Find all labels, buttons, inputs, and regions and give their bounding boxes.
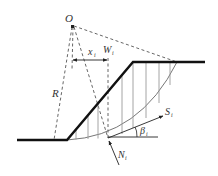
label-normal-sub: i xyxy=(125,155,127,161)
label-radius-R: R xyxy=(51,87,59,99)
label-center-O: O xyxy=(65,12,73,24)
label-weight-sub: i xyxy=(112,50,114,56)
label-angle-beta: β xyxy=(139,125,145,136)
label-distance-sub: i xyxy=(94,52,96,58)
ground-profile xyxy=(17,62,205,140)
center-point xyxy=(71,25,74,28)
slope-stability-diagram: O R x i W i S i β i N i xyxy=(0,0,218,176)
radius-line-left xyxy=(54,27,72,140)
angle-arc xyxy=(135,127,137,137)
radius-line-inner xyxy=(72,27,73,70)
label-shear-S: S xyxy=(165,106,170,117)
label-distance-x: x xyxy=(87,46,93,57)
label-shear-sub: i xyxy=(171,112,173,118)
label-angle-sub: i xyxy=(146,131,148,137)
